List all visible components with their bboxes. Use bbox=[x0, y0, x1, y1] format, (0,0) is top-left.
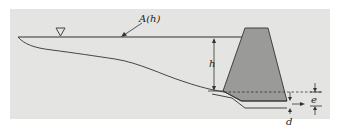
e-label: e bbox=[311, 94, 317, 105]
water-level-triangle-icon bbox=[56, 28, 65, 36]
e-arrow-up-icon bbox=[313, 106, 317, 110]
outflow-arrow-icon bbox=[300, 102, 305, 106]
d-label: d bbox=[286, 116, 292, 127]
reservoir-bottom-curve bbox=[18, 37, 224, 92]
area-label: A(h) bbox=[138, 13, 161, 24]
d-arrow-up-icon bbox=[288, 108, 292, 112]
h-label: h bbox=[209, 58, 215, 69]
dam bbox=[223, 28, 287, 101]
area-leader-arrow-icon bbox=[121, 32, 127, 37]
area-leader-line bbox=[124, 23, 142, 35]
d-arrow-down-icon bbox=[288, 97, 292, 101]
h-arrow-up-icon bbox=[212, 38, 216, 43]
e-arrow-down-icon bbox=[313, 88, 317, 92]
reservoir-dam-diagram: h A(h) e d bbox=[0, 0, 341, 130]
